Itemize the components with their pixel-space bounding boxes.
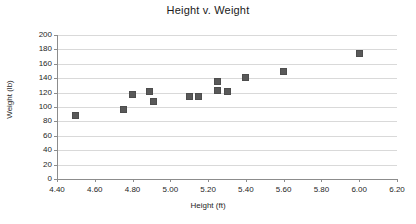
data-point[interactable] <box>129 91 136 98</box>
y-gridline <box>57 78 397 79</box>
y-tick-label: 140 <box>14 74 52 82</box>
y-gridline <box>57 136 397 137</box>
data-point[interactable] <box>242 74 249 81</box>
data-point[interactable] <box>195 93 202 100</box>
data-point[interactable] <box>150 98 157 105</box>
y-tick-label: 40 <box>14 146 52 154</box>
x-tick-label: 4.40 <box>37 186 77 194</box>
x-tick-label: 5.00 <box>150 186 190 194</box>
x-tick-label: 4.80 <box>113 186 153 194</box>
data-point[interactable] <box>120 106 127 113</box>
y-gridline <box>57 121 397 122</box>
y-axis-line <box>57 35 58 180</box>
x-axis-label: Height (ft) <box>0 201 416 210</box>
y-tick-label: 160 <box>14 60 52 68</box>
y-gridline <box>57 165 397 166</box>
data-point[interactable] <box>214 87 221 94</box>
y-gridline <box>57 64 397 65</box>
x-tick-label: 6.00 <box>339 186 379 194</box>
data-point[interactable] <box>214 78 221 85</box>
y-tick-label: 200 <box>14 31 52 39</box>
scatter-chart: Height v. Weight Height (ft) Weight (lb)… <box>0 0 416 224</box>
x-axis-line <box>57 179 398 180</box>
y-gridline <box>57 35 397 36</box>
x-tick-label: 6.20 <box>377 186 416 194</box>
data-point[interactable] <box>224 88 231 95</box>
y-tick-label: 0 <box>14 175 52 183</box>
y-gridline <box>57 49 397 50</box>
y-gridline <box>57 107 397 108</box>
y-tick-label: 120 <box>14 89 52 97</box>
chart-title: Height v. Weight <box>0 4 416 16</box>
plot-area <box>57 35 397 179</box>
y-tick-label: 100 <box>14 103 52 111</box>
x-tick-label: 5.60 <box>264 186 304 194</box>
data-point[interactable] <box>72 112 79 119</box>
y-gridline <box>57 150 397 151</box>
x-tick-label: 5.80 <box>301 186 341 194</box>
data-point[interactable] <box>186 93 193 100</box>
data-point[interactable] <box>356 50 363 57</box>
x-tick-label: 5.40 <box>226 186 266 194</box>
x-tick-label: 5.20 <box>188 186 228 194</box>
x-tick-label: 4.60 <box>75 186 115 194</box>
y-tick-label: 20 <box>14 161 52 169</box>
y-tick-label: 80 <box>14 117 52 125</box>
data-point[interactable] <box>280 68 287 75</box>
data-point[interactable] <box>146 88 153 95</box>
y-tick-label: 60 <box>14 132 52 140</box>
y-tick-label: 180 <box>14 45 52 53</box>
y-axis-label: Weight (lb) <box>5 55 14 145</box>
